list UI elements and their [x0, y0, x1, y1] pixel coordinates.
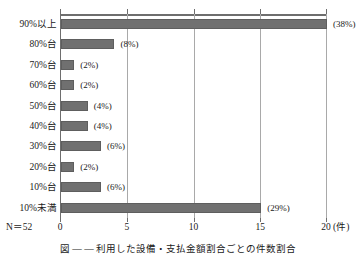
- figure-caption: 図 ― ― 利用した設備・支払金額割合ごとの件数割合: [0, 243, 356, 255]
- plot-area: (38%) (8%) (2%) (2%) (4%) (4%) (6%): [60, 14, 327, 218]
- category-label-10-dai: 10%台: [3, 177, 57, 197]
- category-label-20-dai: 20%台: [3, 157, 57, 177]
- bar-70-dai: [61, 60, 74, 70]
- bar-label-70-dai: (2%): [80, 56, 98, 74]
- bar-10-miman: [61, 203, 261, 213]
- figure: 90%以上 80%台 70%台 60%台 50%台 40%台 30%台 20%台…: [0, 0, 356, 255]
- bar-90-ijo: [61, 19, 327, 29]
- bar-label-50-dai: (4%): [94, 97, 112, 115]
- bar-50-dai: [61, 101, 88, 111]
- sample-size-note: N＝52: [6, 221, 32, 233]
- tick-top-20: [326, 9, 327, 14]
- gridline-20: [326, 14, 327, 218]
- tick-top-15: [260, 9, 261, 14]
- category-label-90-ijo: 90%以上: [3, 14, 57, 34]
- bar-label-10-dai: (6%): [107, 178, 125, 196]
- category-label-40-dai: 40%台: [3, 116, 57, 136]
- bar-label-30-dai: (6%): [107, 137, 125, 155]
- bar-label-10-miman: (29%): [267, 199, 290, 217]
- bar-30-dai: [61, 141, 101, 151]
- bar-10-dai: [61, 182, 101, 192]
- xtick-label-0: 0: [50, 221, 70, 233]
- xtick-label-10: 10: [184, 221, 204, 233]
- bar-60-dai: [61, 80, 74, 90]
- category-label-50-dai: 50%台: [3, 96, 57, 116]
- category-label-30-dai: 30%台: [3, 136, 57, 156]
- tick-top-0: [60, 9, 61, 14]
- bar-label-80-dai: (8%): [120, 35, 138, 53]
- bar-label-40-dai: (4%): [94, 117, 112, 135]
- gridline-15: [260, 14, 261, 218]
- bar-80-dai: [61, 39, 114, 49]
- tick-top-10: [194, 9, 195, 14]
- xtick-label-15: 15: [250, 221, 270, 233]
- bar-label-20-dai: (2%): [80, 158, 98, 176]
- bar-40-dai: [61, 121, 88, 131]
- xtick-label-5: 5: [117, 221, 137, 233]
- category-label-10-miman: 10%未満: [3, 198, 57, 218]
- bar-20-dai: [61, 162, 74, 172]
- bar-label-60-dai: (2%): [80, 76, 98, 94]
- tick-top-5: [127, 9, 128, 14]
- gridline-10: [194, 14, 195, 218]
- category-label-70-dai: 70%台: [3, 55, 57, 75]
- x-axis-unit-label: (件): [333, 221, 349, 233]
- bar-label-90-ijo: (38%): [333, 15, 356, 33]
- category-label-80-dai: 80%台: [3, 34, 57, 54]
- category-label-60-dai: 60%台: [3, 75, 57, 95]
